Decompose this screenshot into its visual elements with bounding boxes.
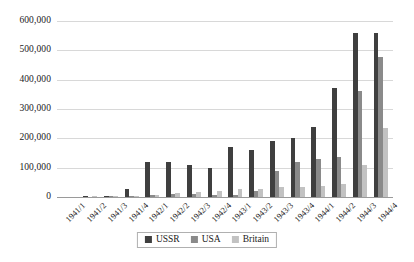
y-axis-tick-label: 400,000: [19, 75, 51, 85]
bar-group: [225, 21, 246, 197]
x-axis-tick: 1944/4: [370, 198, 391, 242]
bar-group: [329, 21, 350, 197]
y-axis-tick-label: 600,000: [19, 16, 51, 26]
y-axis-tick-label: 0: [46, 192, 51, 202]
bar-group: [267, 21, 288, 197]
y-axis-tick-label: 500,000: [19, 46, 51, 56]
x-axis-tick-label: 1944/4: [376, 201, 399, 224]
x-axis-tick: 1944/2: [329, 198, 350, 242]
legend-swatch-icon: [191, 236, 198, 243]
bar-britain: [175, 193, 180, 197]
bar-ussr: [228, 147, 233, 197]
x-axis-tick: 1941/3: [101, 198, 122, 242]
bar-britain: [362, 165, 367, 197]
bar-group: [80, 21, 101, 197]
bar-ussr: [145, 162, 150, 197]
x-axis-tick: 1944/1: [308, 198, 329, 242]
plot-area: [57, 21, 393, 197]
bar-group: [204, 21, 225, 197]
bar-group: [184, 21, 205, 197]
bar-group: [308, 21, 329, 197]
legend-item-usa[interactable]: USA: [191, 235, 221, 245]
bar-group: [163, 21, 184, 197]
chart-legend: USSRUSABritain: [137, 232, 277, 248]
bar-group: [370, 21, 391, 197]
bar-group: [142, 21, 163, 197]
y-axis-labels: 0100,000200,000300,000400,000500,000600,…: [0, 21, 55, 197]
bar-britain: [217, 191, 222, 197]
y-axis-tick-label: 100,000: [19, 163, 51, 173]
bar-chart: 0100,000200,000300,000400,000500,000600,…: [0, 0, 414, 262]
bar-britain: [341, 184, 346, 197]
y-axis-tick-label: 200,000: [19, 134, 51, 144]
bar-britain: [279, 187, 284, 197]
bar-britain: [258, 189, 263, 198]
x-axis-tick: 1941/2: [80, 198, 101, 242]
bar-group: [101, 21, 122, 197]
bar-ussr: [208, 168, 213, 197]
bar-britain: [134, 196, 139, 197]
x-axis-tick: 1944/3: [350, 198, 371, 242]
bar-ussr: [249, 150, 254, 197]
bar-britain: [92, 196, 97, 197]
bar-ussr: [83, 196, 88, 197]
bar-group: [59, 21, 80, 197]
legend-swatch-icon: [145, 236, 152, 243]
x-axis-tick: 1941/1: [59, 198, 80, 242]
bar-britain: [113, 196, 118, 197]
bar-britain: [238, 189, 243, 197]
bar-groups: [57, 21, 393, 197]
bar-ussr: [187, 165, 192, 197]
legend-label: USSR: [156, 235, 180, 245]
x-axis-tick: 1943/4: [287, 198, 308, 242]
bar-britain: [196, 192, 201, 197]
y-axis-tick-label: 300,000: [19, 104, 51, 114]
bar-group: [121, 21, 142, 197]
bar-ussr: [166, 162, 171, 197]
legend-label: USA: [202, 235, 221, 245]
bar-group: [350, 21, 371, 197]
bar-britain: [383, 128, 388, 197]
bar-group: [287, 21, 308, 197]
bar-britain: [321, 186, 326, 197]
legend-item-ussr[interactable]: USSR: [145, 235, 180, 245]
bar-group: [246, 21, 267, 197]
legend-item-britain[interactable]: Britain: [232, 235, 269, 245]
bar-britain: [300, 187, 305, 197]
legend-swatch-icon: [232, 236, 239, 243]
legend-label: Britain: [243, 235, 269, 245]
bar-britain: [155, 195, 160, 197]
